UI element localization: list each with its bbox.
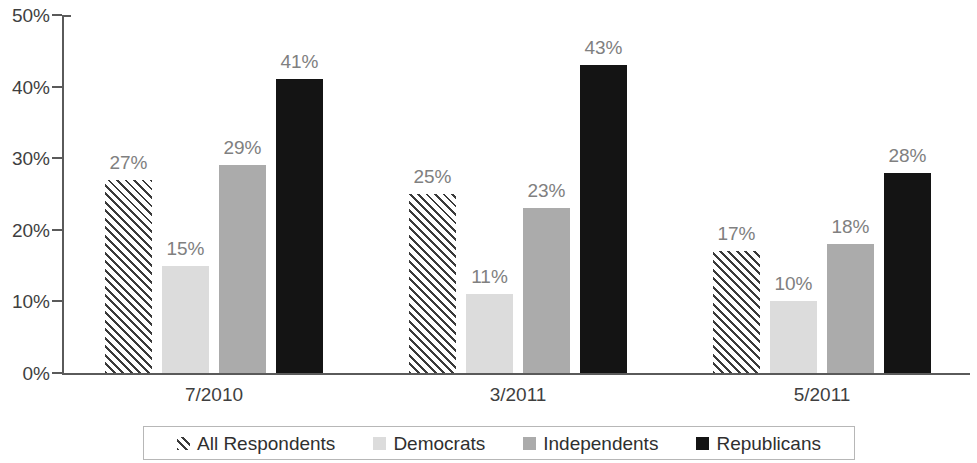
bar-fill xyxy=(466,294,513,373)
bar-fill xyxy=(523,208,570,373)
bar-value-label: 27% xyxy=(109,153,147,172)
bar-fill xyxy=(409,194,456,373)
legend-label: All Respondents xyxy=(197,434,335,453)
bar-value-label: 41% xyxy=(280,52,318,71)
bar-value-label: 18% xyxy=(831,217,869,236)
legend-label: Independents xyxy=(543,434,658,453)
x-axis-line xyxy=(62,373,970,375)
y-axis-tick-label: 50% xyxy=(2,6,50,25)
y-axis-tick xyxy=(52,372,62,374)
bar-value-label: 23% xyxy=(527,181,565,200)
legend-label: Democrats xyxy=(393,434,485,453)
y-axis-tick-label: 20% xyxy=(2,220,50,239)
bar-value-label: 10% xyxy=(774,274,812,293)
legend-label: Republicans xyxy=(716,434,821,453)
y-axis-tick xyxy=(52,86,62,88)
legend-swatch-icon xyxy=(523,437,536,450)
bar-group: 27%15%29%41% xyxy=(105,15,323,373)
bar-fill xyxy=(219,165,266,373)
bar-fill xyxy=(162,266,209,373)
y-axis-tick xyxy=(52,229,62,231)
bar-value-label: 11% xyxy=(471,267,508,286)
y-axis-tick-label: 0% xyxy=(2,364,50,383)
bar-fill xyxy=(105,180,152,373)
y-axis-tick xyxy=(52,14,62,16)
plot-area: 27%15%29%41%25%11%23%43%17%10%18%28% xyxy=(64,15,970,373)
y-axis-tick-label: 10% xyxy=(2,292,50,311)
x-axis-category-label: 5/2011 xyxy=(794,384,851,406)
bar-value-label: 29% xyxy=(223,138,261,157)
bar-chart: 0%10%20%30%40%50% 27%15%29%41%25%11%23%4… xyxy=(0,0,977,463)
bar-fill xyxy=(713,251,760,373)
x-axis-category-label: 7/2010 xyxy=(185,384,243,406)
y-axis-tick xyxy=(52,157,62,159)
bar-fill xyxy=(580,65,627,373)
bar-value-label: 15% xyxy=(166,239,204,258)
chart-legend: All RespondentsDemocratsIndependentsRepu… xyxy=(143,426,855,460)
y-axis-tick-label: 40% xyxy=(2,77,50,96)
bar-value-label: 17% xyxy=(717,224,755,243)
bar-group: 17%10%18%28% xyxy=(713,15,931,373)
bar-value-label: 28% xyxy=(888,146,926,165)
bar-fill xyxy=(770,301,817,373)
bar-fill xyxy=(884,173,931,373)
legend-item[interactable]: Democrats xyxy=(373,434,485,453)
legend-item[interactable]: All Respondents xyxy=(177,434,335,453)
legend-item[interactable]: Independents xyxy=(523,434,658,453)
legend-swatch-icon xyxy=(373,437,386,450)
bar-fill xyxy=(276,79,323,373)
legend-item[interactable]: Republicans xyxy=(696,434,821,453)
y-axis-tick xyxy=(52,300,62,302)
legend-swatch-icon xyxy=(177,437,190,450)
bar-value-label: 25% xyxy=(413,167,451,186)
y-axis-tick-label: 30% xyxy=(2,149,50,168)
legend-swatch-icon xyxy=(696,437,709,450)
bar-value-label: 43% xyxy=(584,38,622,57)
bar-fill xyxy=(827,244,874,373)
bar-group: 25%11%23%43% xyxy=(409,15,627,373)
x-axis-category-label: 3/2011 xyxy=(490,384,547,406)
